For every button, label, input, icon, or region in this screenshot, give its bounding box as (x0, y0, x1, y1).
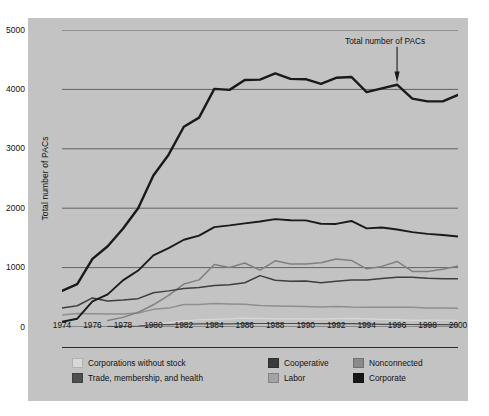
x-tick-label: 1994 (350, 320, 384, 330)
y-tick-label: 3000 (0, 144, 25, 153)
chart-panel: Total number of PACs 5000400030002000100… (28, 18, 468, 401)
legend-item-trade-membership-and-health: Trade, membership, and health (72, 373, 268, 383)
y-tick-label: 4000 (0, 85, 25, 94)
chart-legend: Corporations without stock Cooperative N… (72, 358, 462, 388)
legend-swatch-trade-membership-and-health (72, 373, 83, 383)
legend-swatch-corporate (353, 373, 364, 383)
y-axis-title: Total number of PACs (38, 30, 52, 327)
y-tick-label: 0 (0, 323, 25, 332)
legend-swatch-corporations-without-stock (72, 358, 83, 368)
x-tick-label: 1988 (258, 320, 292, 330)
total-pacs-annotation: Total number of PACs (345, 36, 425, 46)
plot-area (62, 30, 458, 327)
x-tick-label: 1996 (380, 320, 414, 330)
x-tick-label: 1980 (136, 320, 170, 330)
legend-item-cooperative: Cooperative (268, 358, 353, 368)
x-tick-label: 1986 (228, 320, 262, 330)
legend-item-corporate: Corporate (353, 373, 406, 383)
legend-label-cooperative: Cooperative (284, 359, 329, 368)
x-tick-label: 1978 (106, 320, 140, 330)
legend-item-labor: Labor (268, 373, 353, 383)
x-tick-label: 1974 (45, 320, 79, 330)
legend-separator (62, 347, 458, 348)
x-tick-label: 1982 (167, 320, 201, 330)
series-line-nonconnected (108, 259, 458, 320)
legend-label-trade-membership-and-health: Trade, membership, and health (88, 374, 203, 383)
y-tick-label: 2000 (0, 204, 25, 213)
x-tick-label: 1976 (75, 320, 109, 330)
x-tick-label: 1998 (411, 320, 445, 330)
x-tick-label: 2000 (441, 320, 475, 330)
legend-row-1: Corporations without stock Cooperative N… (72, 358, 462, 368)
legend-swatch-nonconnected (353, 358, 364, 368)
legend-item-corporations-without-stock: Corporations without stock (72, 358, 268, 368)
y-tick-label: 1000 (0, 263, 25, 272)
legend-row-2: Trade, membership, and health Labor Corp… (72, 373, 462, 383)
legend-swatch-labor (268, 373, 279, 383)
series-line-labor (62, 304, 458, 315)
legend-label-nonconnected: Nonconnected (369, 359, 423, 368)
x-tick-label: 1990 (289, 320, 323, 330)
x-tick-label: 1992 (319, 320, 353, 330)
legend-label-labor: Labor (284, 374, 305, 383)
series-line-total (62, 73, 458, 290)
plot-svg (62, 30, 458, 327)
chart-figure: Total number of PACs 5000400030002000100… (0, 0, 489, 416)
legend-swatch-cooperative (268, 358, 279, 368)
x-tick-label: 1984 (197, 320, 231, 330)
annotation-arrow-head (394, 72, 399, 83)
legend-item-nonconnected: Nonconnected (353, 358, 423, 368)
legend-label-corporate: Corporate (369, 374, 406, 383)
y-tick-label: 5000 (0, 26, 25, 35)
legend-label-corporations-without-stock: Corporations without stock (88, 359, 186, 368)
